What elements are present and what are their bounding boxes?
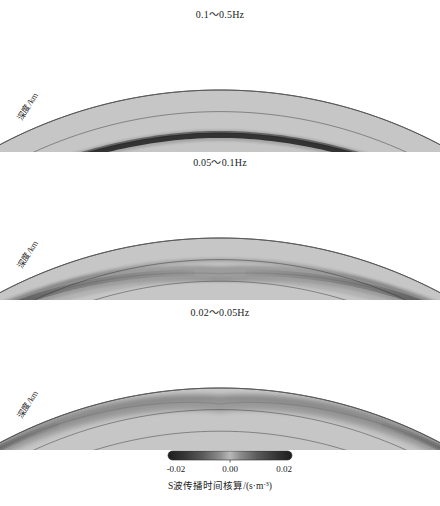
colorbar-region: -0.020.000.02S波传播时间核算/(s·m-3) xyxy=(0,440,440,506)
y-axis-title: 深度/km xyxy=(15,238,40,270)
colorbar-tick-label: 0.02 xyxy=(276,464,292,474)
y-axis-title: 深度/km xyxy=(15,90,40,122)
panel-plot-2: 5°10°15°20°25°30°35°40°45°02004006008001… xyxy=(0,298,440,450)
panel-high-frequency: 0.1～0.5Hz 5°10°15°20°25°30°35°40°45°0200… xyxy=(0,0,440,152)
panel-low-frequency: 0.02～0.05Hz 5°10°15°20°25°30°35°40°45°02… xyxy=(0,298,440,450)
colorbar-plot: -0.020.000.02S波传播时间核算/(s·m-3) xyxy=(0,440,440,506)
panel-mid-frequency: 0.05～0.1Hz 5°10°15°20°25°30°35°40°45°020… xyxy=(0,148,440,300)
y-axis-title: 深度/km xyxy=(15,388,40,420)
colorbar-tick-label: 0.00 xyxy=(222,464,238,474)
colorbar-label: S波传播时间核算/(s·m-3) xyxy=(168,480,272,493)
seismic-sensitivity-kernel-figure: 0.1～0.5Hz 5°10°15°20°25°30°35°40°45°0200… xyxy=(0,0,440,506)
panel-plot-0: 5°10°15°20°25°30°35°40°45°02004006008001… xyxy=(0,0,440,152)
colorbar-tick-label: -0.02 xyxy=(167,464,186,474)
colorbar-gradient xyxy=(168,451,292,460)
panel-plot-1: 5°10°15°20°25°30°35°40°45°02004006008001… xyxy=(0,148,440,300)
